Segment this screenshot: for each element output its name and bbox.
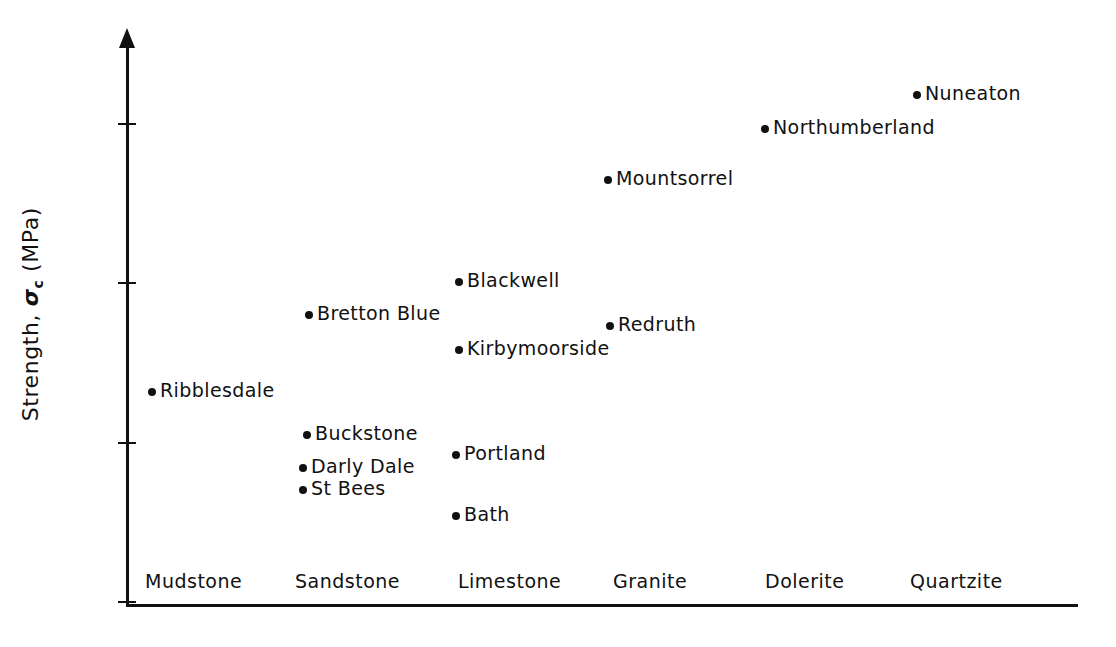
y-tick-mark (118, 282, 136, 284)
data-point-dot-icon (452, 512, 460, 520)
data-point-dot-icon (604, 176, 612, 184)
sigma-symbol: σ (18, 288, 43, 306)
data-point-dot-icon (455, 346, 463, 354)
data-point-dot-icon (305, 311, 313, 319)
y-axis-title-units: (MPa) (18, 207, 43, 280)
sigma-subscript: c (30, 280, 46, 289)
x-category-label-limestone: Limestone (458, 570, 561, 592)
data-point-dot-icon (606, 322, 614, 330)
data-point-label: Ribblesdale (160, 379, 275, 401)
data-point-label: St Bees (311, 477, 386, 499)
x-category-label-granite: Granite (613, 570, 687, 592)
y-axis-title-prefix: Strength, (18, 306, 43, 421)
y-tick-mark (118, 123, 136, 125)
data-point-label: Bretton Blue (317, 302, 441, 324)
x-category-label-sandstone: Sandstone (295, 570, 400, 592)
data-point-dot-icon (913, 91, 921, 99)
x-axis-line (126, 604, 1078, 607)
y-axis-title: Strength, σc (MPa) (18, 114, 46, 514)
data-point-dot-icon (299, 486, 307, 494)
x-category-label-quartzite: Quartzite (910, 570, 1003, 592)
data-point-dot-icon (455, 278, 463, 286)
data-point-dot-icon (452, 451, 460, 459)
y-axis-arrow-icon (119, 28, 135, 48)
x-category-label-dolerite: Dolerite (765, 570, 844, 592)
data-point-label: Redruth (618, 313, 696, 335)
data-point-label: Mountsorrel (616, 167, 733, 189)
rock-strength-scatter-chart: Strength, σc (MPa) 0100200300 MudstoneSa… (0, 0, 1116, 647)
y-tick-mark (118, 442, 136, 444)
data-point-dot-icon (761, 125, 769, 133)
data-point-label: Kirbymoorside (467, 337, 610, 359)
data-point-dot-icon (299, 464, 307, 472)
data-point-label: Portland (464, 442, 546, 464)
data-point-dot-icon (303, 431, 311, 439)
data-point-label: Buckstone (315, 422, 418, 444)
data-point-label: Darly Dale (311, 455, 415, 477)
data-point-label: Bath (464, 503, 510, 525)
y-tick-mark (118, 601, 136, 603)
x-category-label-mudstone: Mudstone (145, 570, 242, 592)
y-axis-line (126, 44, 129, 606)
data-point-label: Nuneaton (925, 82, 1021, 104)
data-point-label: Northumberland (773, 116, 935, 138)
data-point-dot-icon (148, 388, 156, 396)
data-point-label: Blackwell (467, 269, 560, 291)
